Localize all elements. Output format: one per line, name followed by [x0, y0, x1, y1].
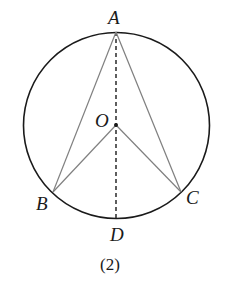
label-c: C [186, 187, 199, 208]
center-point-o [114, 123, 118, 127]
radius-oc [116, 125, 181, 192]
radius-ob [53, 125, 116, 192]
chord-ac [116, 32, 181, 192]
label-b: B [36, 193, 48, 214]
label-d: D [109, 224, 124, 245]
geometry-diagram: A O B C D (2) [0, 0, 230, 288]
label-a: A [106, 7, 120, 28]
figure-caption: (2) [100, 255, 120, 274]
label-o: O [95, 110, 109, 131]
